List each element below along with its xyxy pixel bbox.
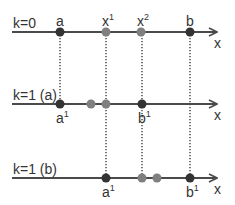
dark-point — [56, 100, 65, 109]
point-label: a1 — [56, 109, 69, 126]
point-label: x2 — [137, 12, 149, 29]
gray-point — [138, 174, 147, 183]
gray-point — [102, 100, 111, 109]
axis-x-label: x — [214, 107, 221, 123]
axis-x-label: x — [214, 35, 221, 51]
point-label: a — [56, 13, 64, 29]
dark-point — [138, 100, 147, 109]
point-label: b1 — [138, 109, 151, 126]
axis-x-label: x — [214, 181, 221, 197]
dark-point — [102, 174, 111, 183]
axis-row-2: k=1 (b)xa1b1 — [12, 161, 221, 200]
gray-point — [87, 100, 96, 109]
point-label: b — [186, 13, 194, 29]
point-label: x1 — [102, 12, 114, 29]
row-label: k=1 (b) — [13, 161, 57, 177]
row-label: k=0 — [13, 15, 36, 31]
point-label: b1 — [186, 183, 199, 200]
gray-point — [153, 174, 162, 183]
point-label: a1 — [102, 183, 115, 200]
axes-group: k=0xax1x2bk=1 (a)xa1b1k=1 (b)xa1b1 — [12, 12, 221, 200]
interval-reduction-diagram: k=0xax1x2bk=1 (a)xa1b1k=1 (b)xa1b1 — [0, 0, 235, 205]
dark-point — [186, 174, 195, 183]
row-label: k=1 (a) — [13, 87, 57, 103]
